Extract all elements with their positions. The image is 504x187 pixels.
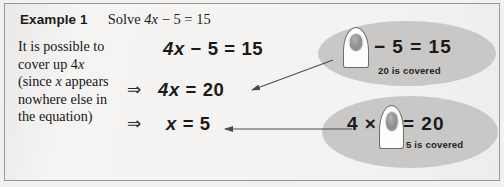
callout-top-caption: 20 is covered [378,65,441,76]
equation-line-3: x = 5 [166,113,211,135]
equation-1-remainder: − 5 = 15 [185,38,263,59]
equation-line-1: 4x − 5 = 15 [163,38,263,60]
prose-line-2-text: cover up 4 [18,56,78,72]
equation-line-2: 4x = 20 [158,79,224,101]
finger-covering-icon-bottom [379,105,404,149]
explanation-text: It is possible to cover up 4x (since x a… [18,38,144,126]
example-number-label: Example 1 [20,12,88,27]
prose-line-5: the equation) [18,108,144,126]
callout-top-equation: − 5 = 15 [374,36,452,58]
callout-bottom-caption: 5 is covered [406,139,463,150]
solve-remainder: − 5 = 15 [158,11,211,27]
example-figure: Example 1 Solve 4x − 5 = 15 It is possib… [0,0,504,187]
equation-1-variable: 4x [163,38,185,59]
prose-line-2-variable: x [78,56,84,72]
equation-2-remainder: = 20 [180,79,225,100]
prose-line-3: (since x appears [18,73,144,91]
implies-arrow-icon-2: ⇒ [127,115,141,132]
finger-covering-icon-top [343,27,369,68]
solve-prefix: Solve [108,11,145,27]
solve-statement: Solve 4x − 5 = 15 [108,11,211,28]
equation-2-variable: 4x [158,79,180,100]
callout-bottom-equation-right: = 20 [403,113,445,135]
equation-3-variable: x [166,113,177,134]
prose-line-2: cover up 4x [18,56,144,74]
prose-line-3-prefix: (since [18,73,55,89]
prose-line-4: nowhere else in [18,91,144,109]
prose-line-3-suffix: appears [62,73,109,89]
fingernail-icon-top [349,33,364,52]
prose-line-1: It is possible to [18,38,144,56]
callout-bottom-equation-left: 4 × [347,113,377,135]
header: Example 1 Solve 4x − 5 = 15 [20,11,211,28]
solve-variable-term: 4x [144,11,158,27]
fingernail-icon-bottom [384,111,398,131]
equation-3-remainder: = 5 [177,113,211,134]
implies-arrow-icon-1: ⇒ [127,81,141,98]
